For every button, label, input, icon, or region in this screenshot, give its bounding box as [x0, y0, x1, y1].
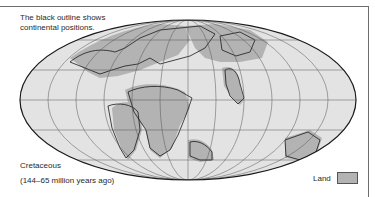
map-caption: The black outline shows continental posi… — [20, 13, 105, 33]
caption-line-1: The black outline shows — [20, 13, 105, 23]
time-range-label: (144–65 million years ago) — [20, 176, 114, 185]
caption-line-2: continental positions. — [20, 23, 105, 33]
legend-swatch-land — [337, 172, 358, 184]
period-label: Cretaceous — [20, 161, 61, 170]
legend-label-land: Land — [313, 174, 331, 183]
legend: Land — [313, 172, 358, 184]
